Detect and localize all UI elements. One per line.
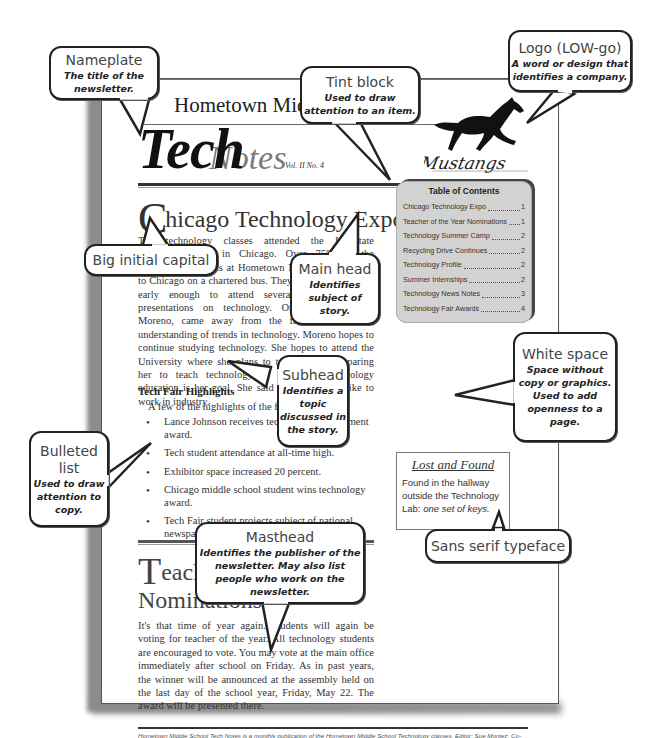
article2-body: It's that time of year again. Students w… — [138, 619, 374, 713]
callout-subhead: Subhead Identifies a topic discussed in … — [277, 355, 349, 447]
toc-item: Technology Summer Camp2 — [403, 229, 525, 244]
bullet-item: Chicago middle school student wins techn… — [142, 484, 378, 509]
volume-number: Vol. II No. 4 — [285, 161, 324, 170]
toc-item: Chicago Technology Expo1 — [403, 200, 525, 215]
toc-list: Chicago Technology Expo1 Teacher of the … — [403, 200, 525, 316]
toc-item: Technology News Notes3 — [403, 287, 525, 302]
table-of-contents-tint-block: Table of Contents Chicago Technology Exp… — [396, 181, 532, 323]
masthead-rule — [138, 727, 528, 729]
bullet-item: Tech student attendance at all-time high… — [142, 447, 378, 460]
toc-item: Teacher of the Year Nominations1 — [403, 215, 525, 230]
headline-text: hicago Technology Expo — [165, 206, 404, 232]
callout-tint-block: Tint block Used to draw attention to an … — [300, 66, 420, 124]
logo-text: Mustangs — [424, 153, 508, 173]
callout-big-initial-capital: Big initial capital — [84, 244, 218, 276]
mustang-horse-logo-icon: Mustangs — [424, 93, 534, 173]
callout-main-head: Main head Identifies subject of story. — [290, 253, 380, 325]
callout-bulleted-list: Bulleted list Used to draw attention to … — [29, 431, 109, 527]
toc-item: Technology Fair Awards4 — [403, 302, 525, 317]
masthead-text: Hometown Middle School Tech Notes is a m… — [138, 731, 528, 738]
subhead: Tech Fair Highlights — [138, 385, 235, 397]
highlights-intro: A few of the highlights of the fair: — [148, 401, 292, 412]
lost-and-found-box: Lost and Found Found in the hallway outs… — [396, 452, 510, 530]
nameplate-tech: Tech — [138, 117, 244, 181]
callout-nameplate: Nameplate The title of the newsletter. — [49, 46, 159, 100]
bullet-item: Exhibitor space increased 20 percent. — [142, 466, 378, 479]
callout-logo: Logo (LOW-go) A word or design that iden… — [508, 30, 632, 92]
callout-sans-serif: Sans serif typeface — [425, 529, 571, 563]
callout-masthead: Masthead Identifies the publisher of the… — [195, 522, 365, 604]
toc-item: Summer Internships2 — [403, 273, 525, 288]
callout-white-space: White space Space without copy or graphi… — [513, 332, 617, 442]
toc-item: Technology Profile2 — [403, 258, 525, 273]
lost-found-title: Lost and Found — [402, 457, 504, 473]
toc-item: Recycling Drive Continues2 — [403, 244, 525, 259]
lost-found-body: Found in the hallway outside the Technol… — [402, 476, 504, 515]
toc-title: Table of Contents — [397, 186, 531, 196]
